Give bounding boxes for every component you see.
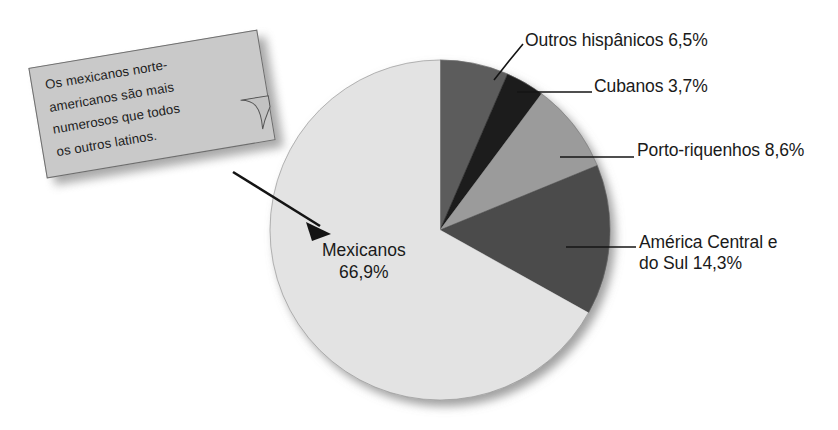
slice-label-mexicanos: Mexicanos 66,9% (322, 240, 406, 284)
slice-label-outros-hispanicos: Outros hispânicos 6,5% (525, 30, 708, 51)
slice-label-porto-riquenhos: Porto-riquenhos 8,6% (637, 140, 804, 161)
slice-label-america-central-line2: do Sul 14,3% (639, 253, 829, 274)
slice-label-mexicanos-line1: Mexicanos (322, 240, 406, 262)
slice-label-america-central-line1: América Central e (639, 232, 829, 253)
slice-label-mexicanos-line2: 66,9% (322, 262, 406, 284)
slice-label-cubanos: Cubanos 3,7% (594, 76, 708, 97)
chart-canvas: Os mexicanos norte- americanos são mais … (0, 0, 838, 430)
slice-label-america-central: América Central e do Sul 14,3% (639, 232, 829, 273)
